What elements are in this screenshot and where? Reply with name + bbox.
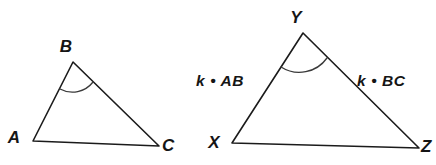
figure-canvas: A B C X Y Z k • AB k • BC	[0, 0, 436, 165]
side-label-xy: k • AB	[196, 72, 244, 89]
angle-arc-b	[60, 82, 93, 92]
vertex-label-b: B	[60, 37, 72, 56]
triangle-abc-group: A B C	[7, 37, 175, 155]
triangle-xyz-outline	[232, 33, 419, 148]
geometry-figure: A B C X Y Z k • AB k • BC	[0, 0, 436, 165]
vertex-label-y: Y	[290, 8, 303, 27]
triangle-xyz-group: X Y Z k • AB k • BC	[196, 8, 432, 156]
angle-arc-y	[281, 58, 327, 72]
triangle-abc-outline	[33, 62, 159, 146]
side-label-yz: k • BC	[357, 72, 406, 89]
vertex-label-a: A	[7, 128, 20, 147]
vertex-label-x: X	[207, 133, 221, 152]
vertex-label-z: Z	[420, 137, 432, 156]
vertex-label-c: C	[162, 136, 175, 155]
